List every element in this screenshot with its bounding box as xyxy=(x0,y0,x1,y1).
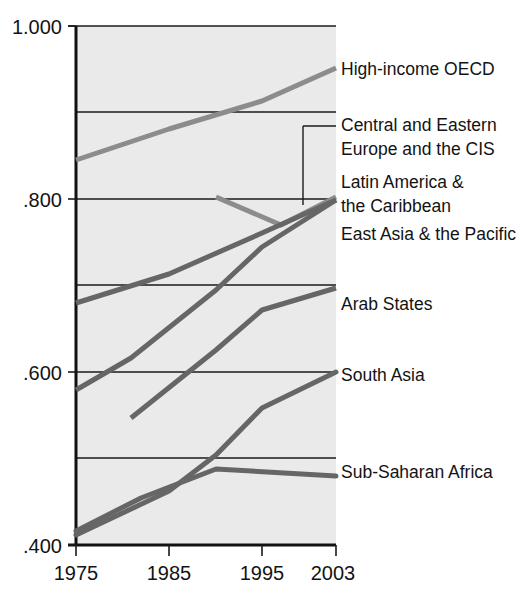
y-tick-label-400: .400 xyxy=(23,535,62,557)
series-label-latin-america-caribbean-line2: the Caribbean xyxy=(341,196,451,216)
series-label-sub-saharan-africa: Sub-Saharan Africa xyxy=(341,462,493,482)
series-label-central-eastern-europe-cis-line2: Europe and the CIS xyxy=(341,139,495,159)
y-tick-label-600: .600 xyxy=(23,362,62,384)
series-label-arab-states: Arab States xyxy=(341,294,433,314)
series-label-south-asia: South Asia xyxy=(341,365,425,385)
x-tick-label-1975: 1975 xyxy=(54,562,99,584)
series-label-east-asia-pacific: East Asia & the Pacific xyxy=(341,224,516,244)
series-label-high-income-oecd: High-income OECD xyxy=(341,59,495,79)
hdi-trend-chart: 1.000 .800 .600 .400 1975 1985 1995 2003 xyxy=(0,0,523,596)
y-tick-label-800: .800 xyxy=(23,189,62,211)
y-tick-label-1000: 1.000 xyxy=(12,16,62,38)
x-tick-label-1985: 1985 xyxy=(147,562,192,584)
x-tick-label-2003: 2003 xyxy=(311,562,356,584)
chart-canvas: 1.000 .800 .600 .400 1975 1985 1995 2003 xyxy=(0,0,523,596)
series-label-latin-america-caribbean-line1: Latin America & xyxy=(341,172,464,192)
x-tick-label-1995: 1995 xyxy=(240,562,285,584)
x-axis-ticks xyxy=(76,545,336,556)
series-label-central-eastern-europe-cis-line1: Central and Eastern xyxy=(341,115,497,135)
